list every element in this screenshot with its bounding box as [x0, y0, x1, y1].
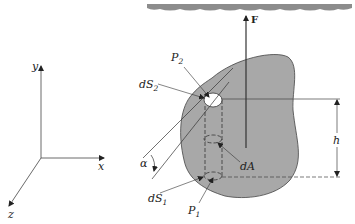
coordinate-axes — [9, 66, 104, 206]
alpha-arc — [151, 155, 155, 171]
x-axis-label: x — [98, 160, 105, 173]
height-label: h — [333, 134, 340, 147]
force-label: F — [251, 14, 258, 25]
diagram-canvas: y x z h α F P2 dS2 — [0, 0, 355, 224]
y-axis-label: y — [31, 60, 39, 73]
ds1-leader — [160, 177, 203, 193]
fluid-surface — [147, 4, 352, 11]
ds1-label: dS1 — [148, 192, 167, 207]
submerged-body — [181, 55, 299, 198]
surface-element-ds2 — [204, 93, 222, 107]
alpha-label: α — [140, 157, 148, 170]
p2-label: P2 — [170, 51, 183, 66]
da-label: dA — [240, 160, 255, 173]
z-axis-label: z — [7, 208, 14, 221]
z-axis — [9, 158, 41, 206]
ds2-label: dS2 — [139, 78, 159, 93]
p1-label: P1 — [187, 204, 200, 219]
